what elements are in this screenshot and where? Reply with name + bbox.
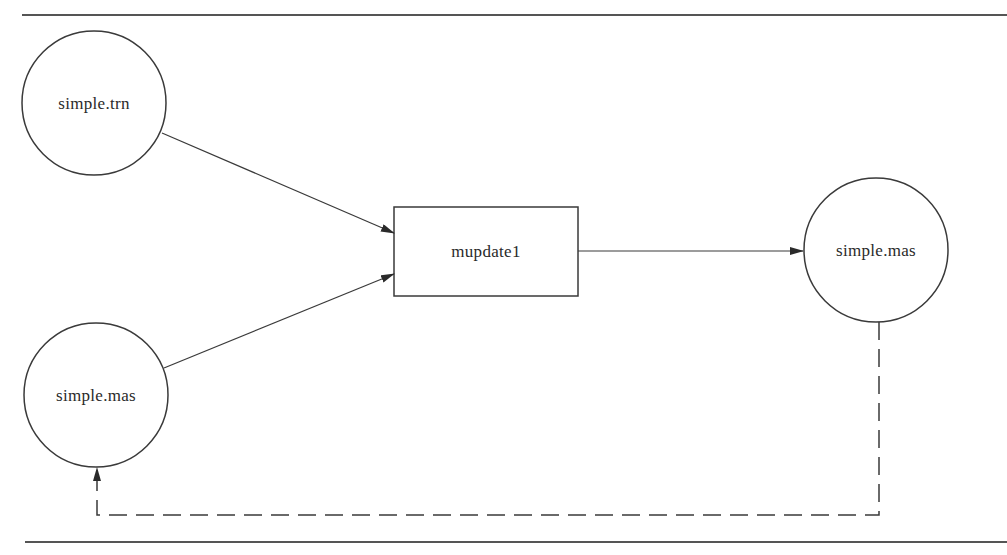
dataflow-diagram: simple.trn simple.mas mupdate1 simple.ma… (0, 0, 1007, 555)
node-simple-mas-output: simple.mas (804, 178, 948, 322)
node-label: simple.trn (58, 94, 130, 113)
edge-mas-to-mupdate1 (164, 274, 394, 368)
edge-feedback-dashed (97, 322, 879, 515)
node-simple-trn-input: simple.trn (22, 31, 166, 175)
node-label: simple.mas (836, 241, 916, 260)
node-simple-mas-input: simple.mas (24, 323, 168, 467)
node-label: mupdate1 (451, 242, 520, 261)
node-mupdate1-process: mupdate1 (394, 207, 578, 296)
edge-trn-to-mupdate1 (162, 133, 394, 233)
node-label: simple.mas (56, 386, 136, 405)
